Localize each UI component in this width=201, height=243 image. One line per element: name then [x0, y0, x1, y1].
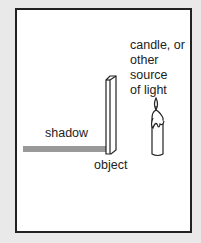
- candle-icon: [152, 98, 165, 156]
- object-block: [106, 76, 116, 154]
- shadow-bar: [23, 146, 107, 152]
- object-label: object: [94, 158, 127, 173]
- shadow-label: shadow: [45, 126, 88, 141]
- diagram-graphics: [0, 0, 201, 243]
- light-source-label: candle, or other source of light: [130, 38, 185, 98]
